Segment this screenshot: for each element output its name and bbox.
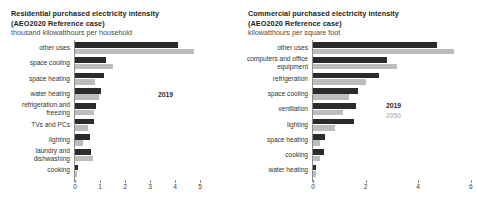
category-label: space cooling [4,59,70,66]
bar-group [75,102,239,117]
bar-2050 [75,110,94,116]
bar-2050 [313,171,316,177]
residential-bar-rows: other usesspace coolingspace heatingwate… [0,40,239,182]
residential-legend-2019: 2019 [158,90,173,100]
bar-row: space heating [239,133,478,148]
residential-chart-panel: Residential purchased electricity intens… [0,0,239,208]
bar-2050 [75,64,113,70]
residential-title-block: Residential purchased electricity intens… [11,9,236,39]
x-tick-label: 3 [148,183,152,190]
x-tick-label: 6 [469,183,473,190]
commercial-chart-panel: Commercial purchased electricity intensi… [239,0,478,208]
category-label: water heating [244,166,308,173]
bar-2050 [313,110,343,116]
bar-2050 [313,79,366,85]
residential-title-line-2: (AEO2020 Reference case) [11,19,236,29]
bar-row: TVs and PCs [0,118,239,133]
commercial-legend-2019: 2019 [386,101,401,111]
commercial-title-block: Commercial purchased electricity intensi… [248,9,473,39]
category-label: space heating [244,136,308,143]
bar-2050 [313,156,320,162]
x-tick-mark [366,180,367,183]
residential-x-axis-ticks: 012345 [0,183,239,195]
bar-group [75,133,239,148]
bar-2019 [313,149,324,155]
x-tick-label: 4 [173,183,177,190]
commercial-legend: 2019 2050 [386,101,401,120]
x-tick-mark [200,180,201,183]
bar-2050 [313,64,397,70]
category-label: TVs and PCs [4,121,70,128]
x-tick-mark [150,180,151,183]
bar-group [75,118,239,133]
bar-row: space cooling [239,87,478,102]
commercial-x-axis-ticks: 0246 [239,183,478,195]
bar-2050 [75,171,77,177]
bar-group [313,56,478,71]
bar-row: ventilation [239,102,478,117]
x-tick-label: 2 [364,183,368,190]
bar-group [313,163,478,178]
bar-2019 [313,165,316,171]
x-tick-mark [175,180,176,183]
x-tick-mark [313,180,314,183]
x-tick-label: 1 [98,183,102,190]
bar-2050 [75,125,88,131]
commercial-bar-rows: other usescomputers and office equipment… [239,40,478,182]
x-tick-label: 0 [73,183,77,190]
bar-group [75,41,239,56]
category-label: other uses [4,44,70,51]
category-label: lighting [4,136,70,143]
x-tick-mark [471,180,472,183]
category-label: computers and office equipment [244,55,308,70]
category-label: ventilation [244,105,308,112]
bar-row: computers and office equipment [239,56,478,71]
category-label: refrigeration and freezing [4,101,70,116]
bar-2050 [313,49,454,55]
bar-row: water heating [0,87,239,102]
bar-group [313,72,478,87]
category-label: cooking [4,166,70,173]
commercial-title-line-2: (AEO2020 Reference case) [248,19,473,29]
bar-2050 [75,156,93,162]
bar-2019 [75,88,101,94]
bar-group [75,56,239,71]
x-tick-label: 4 [416,183,420,190]
residential-legend: 2019 [158,90,173,100]
bar-2050 [75,140,83,146]
bar-2019 [75,103,96,109]
bar-2019 [75,57,106,63]
x-tick-label: 5 [198,183,202,190]
bar-2019 [75,134,90,140]
bar-row: lighting [239,118,478,133]
bar-2019 [313,103,356,109]
x-tick-label: 2 [123,183,127,190]
bar-group [75,148,239,163]
bar-group [313,41,478,56]
category-label: space heating [4,75,70,82]
category-label: water heating [4,90,70,97]
bar-2019 [313,57,387,63]
bar-2019 [75,119,94,125]
bar-row: refrigeration and freezing [0,102,239,117]
residential-title-line-1: Residential purchased electricity intens… [11,9,236,19]
bar-2019 [313,73,379,79]
commercial-legend-2050: 2050 [386,111,401,121]
bar-row: laundry and dishwashing [0,148,239,163]
x-tick-label: 0 [311,183,315,190]
category-label: cooking [244,151,308,158]
bar-2019 [75,149,91,155]
bar-group [313,87,478,102]
x-tick-mark [100,180,101,183]
bar-row: water heating [239,163,478,178]
x-tick-mark [75,180,76,183]
bar-group [75,163,239,178]
bar-row: refrigeration [239,72,478,87]
bar-2050 [75,79,95,85]
category-label: laundry and dishwashing [4,147,70,162]
category-label: other uses [244,44,308,51]
commercial-title-line-1: Commercial purchased electricity intensi… [248,9,473,19]
bar-group [75,72,239,87]
commercial-axis-units-label: kilowatthours per square foot [248,28,473,39]
bar-group [75,87,239,102]
